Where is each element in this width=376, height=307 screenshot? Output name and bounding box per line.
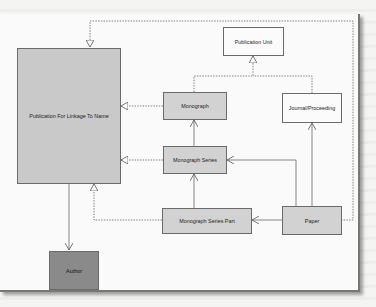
node-publication-unit[interactable]: Publication Unit: [223, 27, 284, 56]
node-publication-for-linkage-to-name[interactable]: Publication For Linkage To Name: [17, 48, 121, 184]
node-label: Monograph Series Part: [179, 218, 234, 224]
node-label: Publication For Linkage To Name: [29, 113, 108, 119]
edge-journal-to-publication-unit: [253, 76, 312, 93]
edge-paper-to-monograph-series: [227, 160, 296, 206]
node-label: Author: [66, 268, 82, 274]
node-paper[interactable]: Paper: [282, 206, 342, 235]
edge-monograph-series-part-to-publication-linkage: [94, 184, 162, 220]
edge-monograph-to-publication-unit: [194, 56, 253, 92]
node-label: Monograph Series: [173, 157, 217, 163]
node-label: Paper: [305, 218, 319, 224]
node-author[interactable]: Author: [49, 251, 99, 290]
node-monograph-series-part[interactable]: Monograph Series Part: [162, 208, 252, 234]
node-monograph-series[interactable]: Monograph Series: [163, 146, 227, 174]
node-label: Publication Unit: [235, 39, 272, 45]
node-label: Journal/Proceeding: [289, 105, 335, 111]
node-label: Monograph: [181, 103, 208, 109]
node-journal-proceeding[interactable]: Journal/Proceeding: [282, 93, 342, 123]
node-monograph[interactable]: Monograph: [163, 92, 227, 120]
